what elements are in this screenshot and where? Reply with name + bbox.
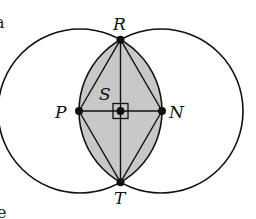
two-circles-diagram: R T P N S a e — [0, 0, 256, 219]
label-P: P — [54, 102, 67, 122]
point-P — [75, 107, 83, 115]
point-R — [117, 36, 125, 44]
point-N — [158, 107, 166, 115]
label-R: R — [112, 14, 126, 34]
label-T: T — [114, 188, 127, 208]
label-N: N — [168, 102, 185, 122]
edge-fragment-top: a — [0, 13, 5, 32]
point-T — [117, 178, 125, 186]
label-S: S — [99, 84, 111, 104]
edge-fragment-bottom: e — [0, 203, 6, 219]
point-S — [117, 107, 125, 115]
